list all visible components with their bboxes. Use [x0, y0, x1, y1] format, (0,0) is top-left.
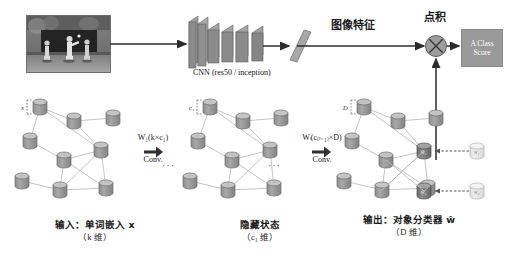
- cnn-block-2: [198, 17, 208, 66]
- output-dim-bracket: [351, 100, 357, 114]
- hidden-dim-label: c₁: [189, 104, 194, 111]
- conv1-arrow-spacer: [122, 143, 184, 154]
- conv1-weight-label: W₁(k×c₁): [122, 133, 184, 142]
- cnn-block-5: [236, 25, 248, 62]
- caption-output: 输出：对象分类器 ŵ （D 维）: [336, 214, 482, 238]
- graph-node: [267, 180, 281, 196]
- graph-node: [274, 110, 288, 126]
- graph-node: [357, 99, 371, 115]
- graph-node: [99, 180, 113, 196]
- cnn-block-6: [252, 26, 263, 61]
- cnn-block-3: [208, 23, 219, 63]
- caption-input-line1: 输入：单词嵌入 x: [32, 219, 158, 232]
- caption-input: 输入：单词嵌入 x （k 维）: [32, 219, 158, 243]
- figure-canvas: x c₁: [0, 0, 512, 262]
- dot-product-label: 点积: [424, 12, 446, 25]
- class-score-box: A Class Score: [461, 29, 503, 67]
- conv2-op-label: Conv.: [288, 155, 356, 164]
- caption-output-line1: 输出：对象分类器 ŵ: [336, 214, 482, 227]
- output-dim-label: D: [342, 104, 348, 111]
- caption-output-line2: （D 维）: [336, 227, 482, 238]
- cnn-label: CNN (res50 / inception): [193, 68, 271, 77]
- class-score-line1: A Class: [470, 39, 493, 48]
- graph-node: [94, 142, 108, 158]
- cnn-block-1: [189, 16, 198, 68]
- caption-hidden-line2: （c₁ 维）: [198, 232, 322, 243]
- graph-node: [203, 99, 217, 115]
- cnn-block-stack: [189, 16, 263, 68]
- caption-input-line2: （k 维）: [32, 232, 158, 243]
- graph-node: [263, 142, 277, 158]
- graph-node: [183, 173, 197, 189]
- ellipsis-left: ···: [162, 160, 175, 171]
- conv2-label-group: Wₗ(c₍ₗ₋₁₎×D) Conv.: [288, 133, 356, 164]
- conv2-arrow-spacer: [288, 143, 356, 154]
- graph-node: [337, 173, 351, 189]
- graph-node: [67, 113, 81, 129]
- graph-node: [106, 110, 120, 126]
- conv2-weight-label: Wₗ(c₍ₗ₋₁₎×D): [288, 133, 356, 142]
- graph-node: [57, 152, 71, 168]
- image-feature-label: 图像特征: [331, 20, 375, 33]
- graph-node: [15, 173, 29, 189]
- dot-product-node: [426, 36, 447, 57]
- graph-nodes-output: D ŵ₁ ŵ₂ w₁ w₂: [337, 99, 484, 199]
- classifier-node-1-label: ŵ₁: [421, 149, 426, 155]
- graph-node: [391, 113, 405, 129]
- caption-hidden-line1: 隐藏状态: [198, 219, 322, 232]
- graph-node: [53, 182, 67, 198]
- graph-node: [23, 133, 37, 149]
- input-dim-bracket: [27, 100, 33, 114]
- hidden-dim-bracket: [197, 100, 203, 114]
- graph-node: [33, 99, 47, 115]
- target-weight-1-label: w₁: [474, 149, 479, 155]
- graph-node: [191, 133, 205, 149]
- caption-hidden: 隐藏状态 （c₁ 维）: [198, 219, 322, 243]
- graph-node: [429, 110, 443, 126]
- ellipsis-right: ···: [268, 160, 281, 171]
- class-score-line2: Score: [473, 48, 490, 57]
- cnn-block-4: [222, 25, 233, 62]
- graph-node: [221, 182, 235, 198]
- graph-node: [225, 152, 239, 168]
- input-dim-label: x: [20, 104, 24, 111]
- graph-node: [236, 113, 250, 129]
- target-weight-2-label: w₂: [474, 189, 479, 195]
